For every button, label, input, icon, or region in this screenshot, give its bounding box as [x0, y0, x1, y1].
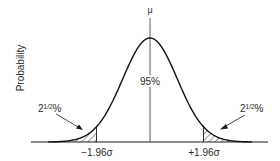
right-tail-arrow	[224, 115, 245, 127]
mean-label: μ	[147, 5, 152, 15]
left-tail-arrowhead	[76, 125, 83, 131]
left-critical-label: −1.96σ	[81, 147, 113, 158]
normal-distribution-chart: μ 95% Probability 21/2% 21/2% −1.96σ +1.…	[0, 0, 280, 161]
left-tail-arrow	[56, 114, 80, 128]
center-area-label: 95%	[140, 76, 160, 87]
right-tail-label: 21/2%	[240, 103, 264, 114]
right-critical-label: +1.96σ	[188, 147, 220, 158]
svg-text:21/2%: 21/2%	[240, 103, 264, 114]
y-axis-label: Probability	[15, 45, 26, 92]
svg-text:21/2%: 21/2%	[38, 103, 62, 114]
left-tail-label: 21/2%	[38, 103, 62, 114]
right-tail-arrowhead	[220, 124, 228, 130]
